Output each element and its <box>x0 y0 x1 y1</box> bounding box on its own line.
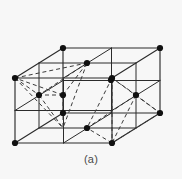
atom-face-center <box>84 60 90 66</box>
atom-face-center <box>60 92 66 98</box>
atom-face-center <box>36 92 42 98</box>
atom-corner <box>157 45 163 51</box>
atom-corner <box>109 140 115 146</box>
atom-face-center <box>84 125 90 131</box>
atom-face-center <box>133 92 139 98</box>
atom-corner <box>157 110 163 116</box>
atom-corner <box>12 75 18 81</box>
atom-corner <box>60 45 66 51</box>
figure-caption: (a) <box>0 152 182 166</box>
atom-corner <box>12 140 18 146</box>
atom-corner <box>60 110 66 116</box>
atom-face-center <box>108 77 114 83</box>
figure-container: (a) <box>0 0 182 179</box>
